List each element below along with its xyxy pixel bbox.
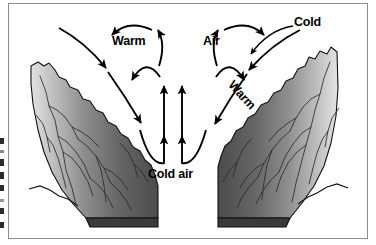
right-mountain-slope: [218, 47, 348, 227]
label-cold: Cold: [294, 15, 321, 29]
left-mountain-slope: [29, 62, 158, 227]
left-cell-inner-arc: [132, 67, 160, 80]
inflow-arrow-left-inner: [108, 72, 141, 123]
inflow-arrow-left-outer: [59, 28, 106, 68]
label-warm-left: Warm: [112, 34, 145, 48]
label-cold-air: Cold air: [148, 167, 193, 181]
diagram-stage: Warm Air Cold Cold air Warm: [0, 0, 376, 245]
left-cell-rising-limb: [158, 30, 162, 66]
right-cell-outer-arc: [224, 26, 264, 35]
inflow-arrow-right-outer: [249, 30, 300, 70]
left-valley-floor: [86, 218, 158, 227]
label-air: Air: [203, 34, 220, 48]
convergence-arrow-right: [182, 130, 206, 163]
right-cell-inner-arc: [216, 67, 244, 80]
right-valley-floor: [218, 218, 290, 227]
valley-circulation-illustration: [0, 0, 376, 245]
